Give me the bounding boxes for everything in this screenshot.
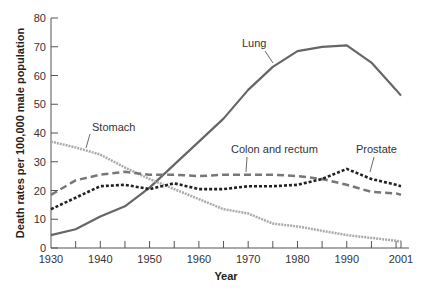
x-axis-title: Year — [214, 270, 238, 282]
y-tick-label: 20 — [34, 185, 46, 197]
series-label-stomach: Stomach — [92, 121, 135, 133]
x-tick-label: 1980 — [285, 253, 309, 265]
x-tick-label: 1990 — [335, 253, 359, 265]
line-chart: 01020304050607080 1930194019501960197019… — [0, 0, 423, 291]
x-tick-label: 1950 — [137, 253, 161, 265]
series-stomach — [51, 142, 401, 242]
series-lung — [51, 45, 401, 235]
series-lines — [51, 45, 401, 241]
x-tick-label: 1940 — [88, 253, 112, 265]
y-axis-title: Death rates per 100,000 male population — [14, 28, 26, 239]
y-tick-label: 30 — [34, 156, 46, 168]
series-label-prostate: Prostate — [356, 143, 397, 155]
y-tick-label: 40 — [34, 127, 46, 139]
x-tick-label: 1960 — [187, 253, 211, 265]
y-tick-label: 50 — [34, 98, 46, 110]
y-axis: 01020304050607080 — [34, 12, 58, 254]
y-tick-label: 60 — [34, 70, 46, 82]
x-axis: 19301940195019601970198019902001 — [39, 241, 413, 265]
series-labels: LungStomachColon and rectumProstate — [86, 37, 397, 172]
x-tick-label: 1970 — [236, 253, 260, 265]
x-tick-label: 2001 — [389, 253, 413, 265]
x-tick-label: 1930 — [39, 253, 63, 265]
series-label-colon-and-rectum: Colon and rectum — [231, 143, 318, 155]
y-tick-label: 70 — [34, 41, 46, 53]
series-label-lung: Lung — [242, 37, 266, 49]
y-tick-label: 80 — [34, 12, 46, 24]
y-tick-label: 10 — [34, 213, 46, 225]
series-colon-and-rectum — [51, 172, 401, 195]
